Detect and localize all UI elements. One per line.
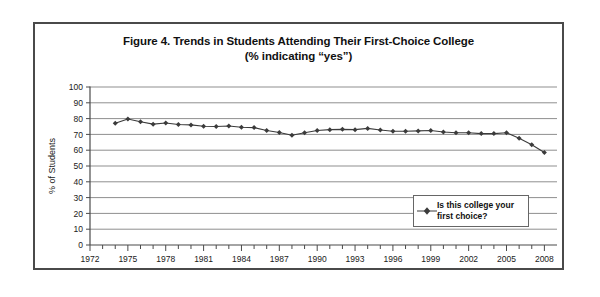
series-data-point (252, 125, 257, 130)
y-axis-tick-label: 40 (74, 177, 84, 187)
series-data-point (441, 130, 446, 135)
x-axis-tick-label: 1990 (308, 254, 327, 264)
series-data-point (327, 127, 332, 132)
x-axis-tick-label: 1978 (156, 254, 175, 264)
chart-canvas: 0102030405060708090100% of Students 1972… (35, 24, 566, 272)
y-axis-title: % of Students (47, 137, 57, 194)
y-axis: 0102030405060708090100% of Students (47, 82, 90, 250)
figure-root: Figure 4. Trends in Students Attending T… (0, 0, 600, 297)
series-data-point (491, 131, 496, 136)
x-axis-tick-label: 1999 (421, 254, 440, 264)
series-data-point (542, 150, 547, 155)
series-data-point (125, 116, 130, 121)
series-data-point (416, 128, 421, 133)
y-axis-tick-label: 10 (74, 224, 84, 234)
series-data-point (315, 128, 320, 133)
legend-label: Is this college your first choice? (437, 200, 524, 222)
y-axis-tick-label: 100 (69, 82, 83, 92)
series-data-point (353, 127, 358, 132)
series-data-point (289, 133, 294, 138)
series-data-point (264, 128, 269, 133)
figure-border-frame: Figure 4. Trends in Students Attending T… (33, 22, 564, 270)
series-data-point (340, 127, 345, 132)
series-data-point (151, 122, 156, 127)
x-axis-tick-label: 1993 (346, 254, 365, 264)
series-data-point (239, 125, 244, 130)
plot-area: 0102030405060708090100% of Students 1972… (35, 24, 566, 272)
series-data-point (390, 129, 395, 134)
y-axis-tick-label: 90 (74, 98, 84, 108)
y-axis-tick-label: 80 (74, 114, 84, 124)
series-data-point (365, 126, 370, 131)
chart-legend: Is this college your first choice? (413, 195, 529, 227)
x-axis-tick-label: 1984 (232, 254, 251, 264)
series-data-point (113, 121, 118, 126)
x-axis-tick-label: 1975 (118, 254, 137, 264)
series-data-point (529, 142, 534, 147)
x-axis-tick-label: 1987 (270, 254, 289, 264)
series-data-point (226, 124, 231, 129)
series-data-point (176, 122, 181, 127)
y-axis-tick-label: 0 (78, 240, 83, 250)
diamond-marker-icon (417, 196, 437, 226)
x-axis-tick-label: 1972 (81, 254, 100, 264)
series-data-point (517, 136, 522, 141)
x-axis-tick-label: 1996 (383, 254, 402, 264)
series-data-point (378, 127, 383, 132)
data-series (113, 116, 547, 155)
series-data-point (479, 131, 484, 136)
series-data-point (163, 121, 168, 126)
series-data-point (138, 119, 143, 124)
y-axis-tick-label: 20 (74, 209, 84, 219)
x-axis-tick-label: 2008 (535, 254, 554, 264)
y-axis-tick-label: 30 (74, 193, 84, 203)
series-data-point (214, 124, 219, 129)
x-axis: 1972197519781981198419871990199319961999… (81, 245, 555, 264)
y-axis-tick-label: 50 (74, 161, 84, 171)
x-axis-tick-label: 1981 (194, 254, 213, 264)
x-axis-tick-label: 2005 (497, 254, 516, 264)
y-axis-tick-label: 70 (74, 130, 84, 140)
series-data-point (201, 124, 206, 129)
series-data-point (188, 122, 193, 127)
x-axis-tick-label: 2002 (459, 254, 478, 264)
y-axis-tick-label: 60 (74, 145, 84, 155)
series-data-point (428, 128, 433, 133)
series-data-point (403, 129, 408, 134)
